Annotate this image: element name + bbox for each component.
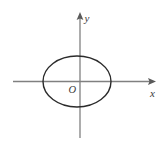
figure-canvas: y x O bbox=[0, 0, 167, 149]
ellipse-coordinate-figure: y x O bbox=[0, 0, 167, 149]
origin-label: O bbox=[69, 84, 77, 95]
y-axis-label: y bbox=[84, 12, 90, 24]
x-axis-label: x bbox=[149, 87, 155, 99]
